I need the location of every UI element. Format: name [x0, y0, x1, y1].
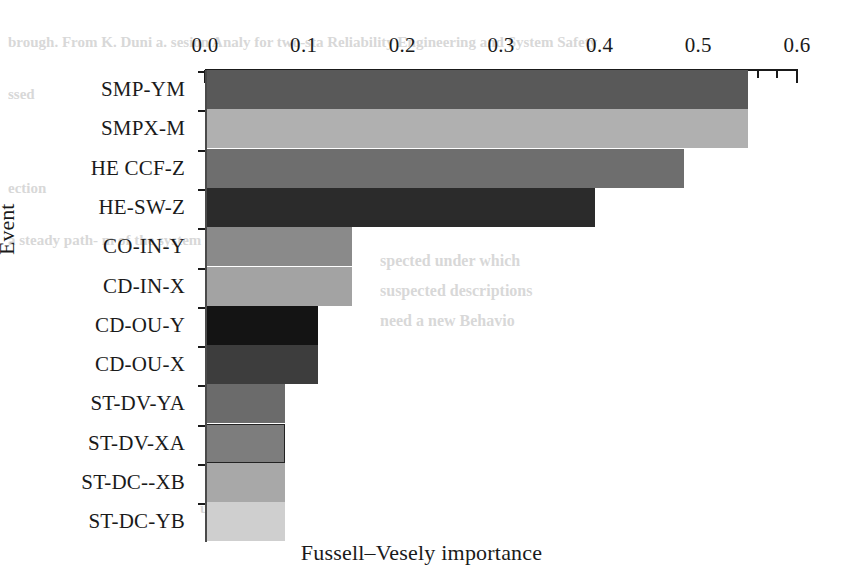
x-tick-label: 0.0 — [191, 33, 218, 58]
bar — [205, 267, 352, 306]
x-tick-label: 0.5 — [685, 33, 712, 58]
x-tick-label: 0.4 — [586, 33, 613, 58]
bar — [205, 70, 748, 109]
y-tick-label: HE CCF-Z — [91, 156, 185, 181]
bar-row — [205, 267, 797, 306]
bar — [205, 424, 285, 463]
x-tick-label: 0.3 — [487, 33, 514, 58]
bar-row — [205, 227, 797, 266]
y-tick-label: ST-DC-YB — [88, 509, 185, 534]
bar-row — [205, 463, 797, 502]
x-tick-label: 0.2 — [389, 33, 416, 58]
bar-row — [205, 149, 797, 188]
bar-row — [205, 109, 797, 148]
y-tick-labels: SMP-YMSMPX-MHE CCF-ZHE-SW-ZCO-IN-YCD-IN-… — [0, 70, 197, 542]
bar — [205, 306, 318, 345]
y-axis-line — [205, 70, 207, 542]
bar-row — [205, 70, 797, 109]
y-tick-label: CD-OU-X — [95, 352, 185, 377]
bar-row — [205, 384, 797, 423]
y-tick-label: CD-IN-X — [103, 274, 185, 299]
bar-row — [205, 424, 797, 463]
bar — [205, 345, 318, 384]
bar — [205, 149, 684, 188]
y-axis-title: Event — [0, 204, 20, 255]
y-tick-label: CD-OU-Y — [95, 313, 185, 338]
bar — [205, 463, 285, 502]
bar-row — [205, 306, 797, 345]
x-tick-label: 0.6 — [783, 33, 810, 58]
bar-row — [205, 502, 797, 541]
bar — [205, 109, 748, 148]
x-axis-title: Fussell–Vesely importance — [0, 540, 843, 566]
y-tick-label: HE-SW-Z — [98, 195, 185, 220]
y-tick-label: CO-IN-Y — [103, 234, 185, 259]
y-tick-label: SMP-YM — [101, 77, 185, 102]
bar — [205, 502, 285, 541]
bar-row — [205, 345, 797, 384]
bar — [205, 188, 595, 227]
y-tick-label: ST-DV-YA — [90, 391, 185, 416]
plot-area — [205, 70, 797, 542]
bar — [205, 227, 352, 266]
x-tick-label: 0.1 — [290, 33, 317, 58]
y-tick-label: SMPX-M — [101, 116, 185, 141]
y-tick-label: ST-DV-XA — [88, 431, 185, 456]
y-tick-label: ST-DC--XB — [81, 470, 185, 495]
fussell-vesely-bar-chart: brough. From K. Duni a. sesion Analy for… — [0, 0, 843, 573]
bar-row — [205, 188, 797, 227]
bar — [205, 384, 285, 423]
